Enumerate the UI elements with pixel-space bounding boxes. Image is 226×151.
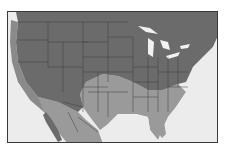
map-frame (7, 11, 218, 143)
range-map (8, 12, 218, 143)
